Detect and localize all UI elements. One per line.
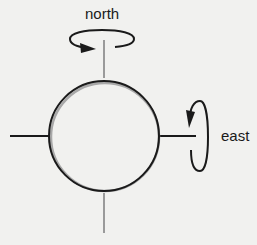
diagram-graphic [0,0,257,245]
north-label: north [85,6,119,21]
sphere-circle [49,81,159,191]
rotation-axes-diagram: north east [0,0,257,245]
north-rotation-arrow-icon [70,30,134,53]
east-label: east [221,128,249,143]
